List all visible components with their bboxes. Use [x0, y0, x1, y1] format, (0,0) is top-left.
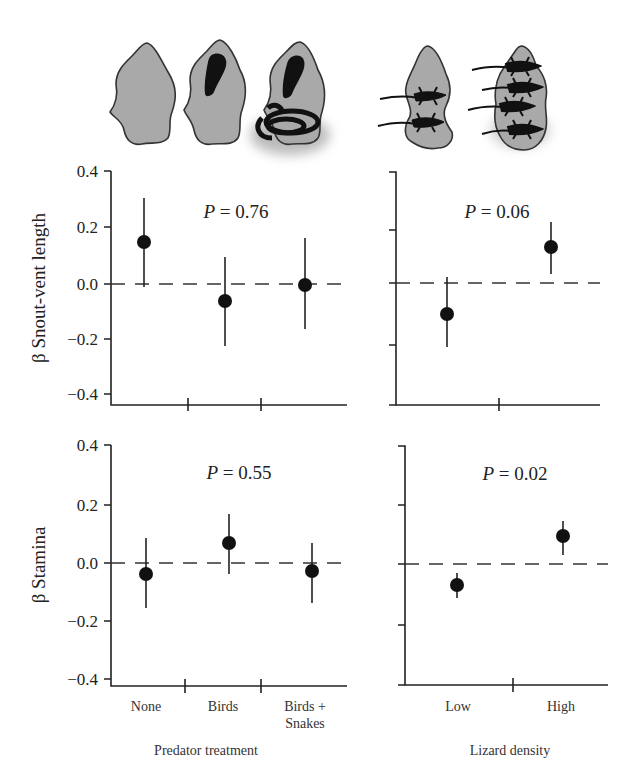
y-tick-label: 0.4 — [77, 162, 99, 181]
panel-bottom-right: P = 0.02 — [398, 446, 608, 692]
y-tick-label: −0.4 — [67, 670, 98, 689]
y-tick-label: −0.4 — [67, 385, 98, 404]
island-bird-snake-icon — [250, 42, 330, 155]
y-tick-label: 0.2 — [77, 496, 98, 515]
figure: β Snout-vent length β Stamina 0.4 0.2 0.… — [0, 0, 633, 784]
p-value-label: P = 0.02 — [481, 463, 547, 484]
p-value-label: P = 0.55 — [205, 462, 271, 483]
y-tick-label: 0.4 — [77, 436, 99, 455]
y-ticks — [398, 505, 405, 685]
data-point-birds — [218, 257, 232, 346]
y-ticks — [104, 445, 111, 679]
y-tick-labels: 0.4 0.2 0.0 −0.2 −0.4 — [67, 162, 98, 404]
island-two-lizards-icon — [378, 46, 452, 149]
x-axis-title-left: Predator treatment — [154, 743, 258, 758]
p-value-label: P = 0.76 — [202, 201, 268, 222]
data-point-low — [450, 573, 464, 598]
y-tick-label: −0.2 — [67, 612, 98, 631]
y-axis-title-bottom: β Stamina — [28, 526, 49, 603]
panel-bottom-left: 0.4 0.2 0.0 −0.2 −0.4 P = 0.55 — [67, 436, 347, 693]
panel-top-left: 0.4 0.2 0.0 −0.2 −0.4 P = 0.76 — [67, 162, 347, 411]
island-four-lizards-icon — [468, 46, 550, 150]
x-category-labels-right: Low High — [445, 699, 575, 714]
x-category-label: Low — [445, 699, 472, 714]
data-point-birds-snakes — [298, 238, 312, 329]
data-point-birds-snakes — [305, 543, 319, 603]
illustrations — [110, 40, 550, 155]
x-axis-title-right: Lizard density — [470, 743, 550, 758]
x-category-label: Birds + — [284, 699, 326, 714]
x-category-label: Birds — [208, 699, 238, 714]
island-empty-icon — [110, 43, 175, 144]
data-point-none — [139, 538, 153, 608]
island-bird-icon — [184, 40, 246, 144]
panel-top-right: P = 0.06 — [389, 172, 600, 411]
p-value-label: P = 0.06 — [463, 201, 529, 222]
y-tick-label: 0.2 — [77, 218, 98, 237]
x-category-label: Snakes — [285, 716, 325, 731]
data-point-high — [556, 521, 570, 555]
data-point-low — [440, 277, 454, 347]
y-ticks — [389, 230, 396, 405]
y-ticks — [104, 171, 111, 394]
y-tick-labels: 0.4 0.2 0.0 −0.2 −0.4 — [67, 436, 98, 689]
x-category-labels-left: None Birds Birds + Snakes — [131, 699, 326, 731]
x-category-label: None — [131, 699, 161, 714]
data-point-high — [544, 222, 558, 274]
x-category-label: High — [547, 699, 575, 714]
y-tick-label: −0.2 — [67, 330, 98, 349]
y-tick-label: 0.0 — [77, 275, 98, 294]
data-point-birds — [222, 514, 236, 574]
y-axis-title-top: β Snout-vent length — [28, 212, 49, 363]
data-point-none — [137, 198, 151, 287]
y-tick-label: 0.0 — [77, 554, 98, 573]
